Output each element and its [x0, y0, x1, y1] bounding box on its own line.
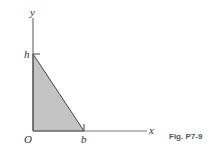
- shaded-triangle: [33, 54, 84, 131]
- x-axis-label: x: [149, 125, 154, 136]
- y-axis-label: y: [30, 7, 35, 18]
- h-label: h: [24, 49, 30, 60]
- origin-label: O: [24, 134, 32, 145]
- figure-caption: Fig. P7-9: [169, 133, 202, 141]
- diagram-svg: [0, 0, 217, 153]
- figure: y h O b x Fig. P7-9: [0, 0, 217, 153]
- b-label: b: [81, 134, 87, 145]
